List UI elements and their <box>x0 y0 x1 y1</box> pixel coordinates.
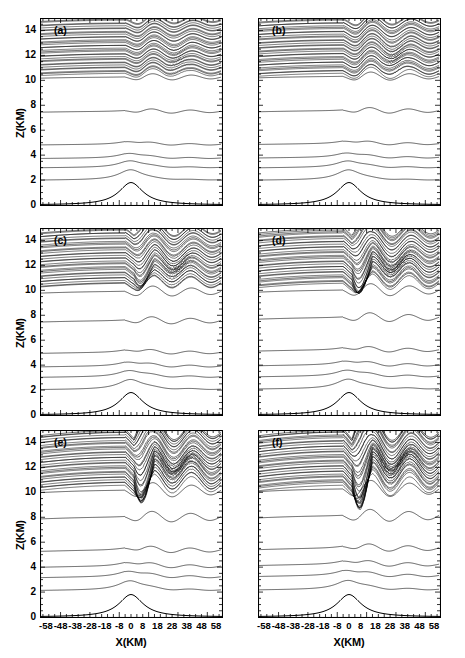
contour-panel-b <box>258 18 441 206</box>
y-tick-label: 2 <box>10 174 36 185</box>
y-tick-label: 4 <box>10 359 36 370</box>
x-tick-label: 38 <box>181 620 192 631</box>
panel-label-f: (f) <box>272 436 283 448</box>
x-tick-label: 18 <box>152 620 163 631</box>
x-tick-label: 48 <box>196 620 207 631</box>
plot-area-a <box>40 18 223 206</box>
x-tick-label: 48 <box>414 620 425 631</box>
y-tick-label: 12 <box>10 49 36 60</box>
y-axis-label: Z(KM) <box>14 318 26 348</box>
x-tick-label: -28 <box>83 620 97 631</box>
y-tick-label: 10 <box>10 74 36 85</box>
y-tick-label: 4 <box>10 561 36 572</box>
y-tick-label: 14 <box>10 24 36 35</box>
panel-label-c: (c) <box>54 234 67 246</box>
x-tick-label: -28 <box>301 620 315 631</box>
x-tick-label: 0 <box>346 620 351 631</box>
contour-panel-a <box>40 18 223 206</box>
y-tick-label: 14 <box>10 436 36 447</box>
figure-container: (a)(b)(c)(d)(e)(f)02468101214Z(KM)024681… <box>0 0 465 658</box>
y-tick-label: 14 <box>10 234 36 245</box>
panel-label-e: (e) <box>54 436 67 448</box>
y-tick-label: 0 <box>10 611 36 622</box>
contour-panel-f <box>258 430 441 618</box>
x-tick-label: -38 <box>286 620 300 631</box>
y-tick-label: 0 <box>10 199 36 210</box>
x-tick-label: -38 <box>68 620 82 631</box>
x-axis-label: X(KM) <box>258 636 440 648</box>
contour-panel-c <box>40 228 223 416</box>
y-axis-label: Z(KM) <box>14 520 26 550</box>
y-tick-label: 12 <box>10 461 36 472</box>
plot-area-b <box>258 18 441 206</box>
x-tick-label: 8 <box>140 620 145 631</box>
panel-label-d: (d) <box>272 234 285 246</box>
x-tick-label: 28 <box>167 620 178 631</box>
x-tick-label: 0 <box>128 620 133 631</box>
contour-panel-d <box>258 228 441 416</box>
panel-label-a: (a) <box>54 24 67 36</box>
x-tick-label: 58 <box>211 620 222 631</box>
x-tick-label: -58 <box>39 620 53 631</box>
x-tick-label: -8 <box>333 620 341 631</box>
x-tick-label: -48 <box>272 620 286 631</box>
x-tick-label: 38 <box>399 620 410 631</box>
x-tick-label: 58 <box>429 620 440 631</box>
x-tick-label: -18 <box>316 620 330 631</box>
x-tick-label: -48 <box>54 620 68 631</box>
plot-area-c <box>40 228 223 416</box>
plot-area-f <box>258 430 441 618</box>
x-tick-label-row: -58-48-38-28-18-8081828384858 <box>40 620 222 634</box>
x-tick-label-row: -58-48-38-28-18-8081828384858 <box>258 620 440 634</box>
y-tick-label: 2 <box>10 586 36 597</box>
x-tick-label: -58 <box>257 620 271 631</box>
y-axis-label: Z(KM) <box>14 108 26 138</box>
x-axis-label: X(KM) <box>40 636 222 648</box>
plot-area-d <box>258 228 441 416</box>
y-tick-label: 4 <box>10 149 36 160</box>
x-tick-label: 18 <box>370 620 381 631</box>
x-tick-label: -8 <box>115 620 123 631</box>
panel-label-b: (b) <box>272 24 285 36</box>
x-tick-label: -18 <box>98 620 112 631</box>
y-tick-label: 12 <box>10 259 36 270</box>
plot-area-e <box>40 430 223 618</box>
x-tick-label: 28 <box>385 620 396 631</box>
y-tick-label: 10 <box>10 284 36 295</box>
contour-panel-e <box>40 430 223 618</box>
y-tick-label: 0 <box>10 409 36 420</box>
y-tick-label: 2 <box>10 384 36 395</box>
x-tick-label: 8 <box>358 620 363 631</box>
y-tick-label: 10 <box>10 486 36 497</box>
